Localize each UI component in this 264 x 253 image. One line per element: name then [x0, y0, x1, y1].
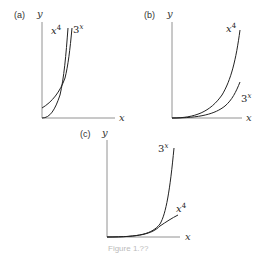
panel-c-y-label: y [101, 127, 108, 138]
panel-b-x-label: x [246, 112, 252, 123]
panel-b-label: (b) [144, 10, 155, 20]
panel-c-curve-x4 [107, 215, 178, 237]
panel-b: (b) y x x4 3x [144, 8, 252, 123]
figure-caption: Figure 1.?? [108, 244, 149, 253]
panel-a-x-label: x [119, 112, 125, 123]
figure-canvas: (a) y x x4 3x (b) y x x4 3x (c) y x 3x [0, 0, 264, 253]
panel-c: (c) y x 3x x4 [80, 127, 191, 242]
panel-c-x4-label: x4 [176, 202, 187, 214]
panel-a-y-label: y [36, 8, 43, 19]
panel-b-x4-label: x4 [226, 22, 237, 34]
panel-b-y-label: y [166, 8, 173, 19]
panel-b-curve-3x [172, 82, 240, 118]
panel-b-curve-x4 [172, 30, 240, 118]
panel-c-label: (c) [80, 129, 91, 139]
panel-a-x4-label: x4 [51, 24, 62, 36]
panel-a: (a) y x x4 3x [14, 8, 125, 123]
panel-b-3x-label: 3x [241, 92, 251, 104]
panel-c-x-label: x [185, 231, 191, 242]
panel-a-label: (a) [14, 10, 25, 20]
panel-a-curve-x4 [42, 28, 68, 118]
panel-c-3x-label: 3x [158, 142, 168, 154]
panel-a-3x-label: 3x [73, 23, 83, 35]
